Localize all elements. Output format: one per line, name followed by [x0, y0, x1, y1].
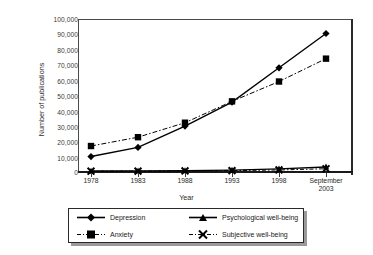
- legend-key-square-icon: [76, 229, 106, 240]
- data-point: [182, 120, 188, 126]
- legend-label: Anxiety: [110, 231, 133, 238]
- legend-label: Depression: [110, 214, 145, 221]
- legend-key-triangle-icon: [188, 212, 218, 223]
- legend-label: Psychological well-being: [222, 214, 298, 221]
- data-point: [323, 55, 329, 61]
- data-point: [135, 134, 141, 140]
- series-depression: [87, 30, 329, 160]
- legend-item-psychological-well-being: Psychological well-being: [181, 212, 305, 223]
- data-point: [88, 143, 94, 149]
- legend-key-diamond-icon: [76, 212, 106, 223]
- data-point: [87, 153, 94, 160]
- legend-item-anxiety: Anxiety: [69, 229, 181, 240]
- legend-item-subjective-well-being: Subjective well-being: [181, 229, 305, 240]
- legend-item-depression: Depression: [69, 212, 181, 223]
- series-anxiety: [88, 55, 329, 149]
- legend-key-x-icon: [188, 229, 218, 240]
- data-point: [276, 78, 282, 84]
- legend: Depression Psychological well-being Anxi…: [68, 208, 304, 243]
- data-point: [229, 98, 235, 104]
- series-psychological-well-being: [88, 164, 329, 174]
- data-point: [134, 144, 141, 151]
- publications-line-chart: 100,000 90,000 80,000 70,000 60,000 50,0…: [0, 0, 373, 255]
- legend-label: Subjective well-being: [222, 231, 288, 238]
- x-tick-label: September 2003: [291, 177, 361, 194]
- x-axis-title: Year: [0, 193, 373, 202]
